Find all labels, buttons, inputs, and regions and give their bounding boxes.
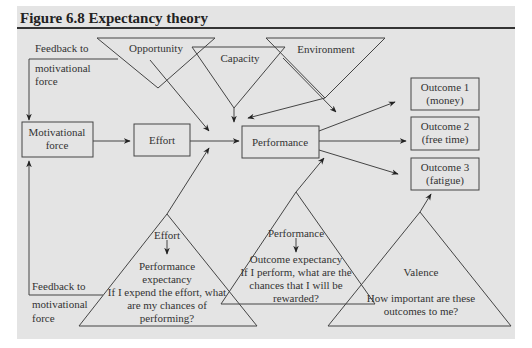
outcome2-line2: (free time)	[422, 133, 469, 146]
effort-triangle-line1: Performance	[139, 260, 195, 272]
outcome3-line1: Outcome 3	[421, 161, 470, 173]
motivational-force-line1: Motivational	[29, 126, 86, 138]
effort-triangle-line5: performing?	[140, 312, 194, 324]
outcome2-line1: Outcome 2	[421, 120, 470, 132]
expectancy-diagram: Opportunity Capacity Environment Feedbac…	[0, 0, 532, 348]
performance-triangle-top: Performance	[268, 227, 324, 239]
feedback-bottom-line1: Feedback to	[32, 280, 86, 292]
feedback-top-line3: force	[35, 75, 58, 87]
outcome3-line2: (fatigue)	[426, 174, 464, 187]
feedback-top-line1: Feedback to	[35, 42, 89, 54]
environment-label: Environment	[297, 43, 354, 55]
effort-label: Effort	[149, 134, 175, 146]
feedback-bottom-line2: motivational	[32, 298, 88, 310]
valence-title: Valence	[404, 266, 439, 278]
performance-triangle-line1: Outcome expectancy	[250, 253, 343, 265]
motivational-force-line2: force	[46, 139, 69, 151]
outcome1-line1: Outcome 1	[421, 81, 470, 93]
performance-triangle-line4: rewarded?	[273, 292, 319, 304]
valence-line1: How important are these	[367, 292, 476, 304]
feedback-top-line2: motivational	[35, 62, 91, 74]
opportunity-label: Opportunity	[129, 42, 183, 54]
effort-triangle-line3: If I expend the effort, what	[108, 286, 226, 298]
effort-triangle-line4: are my chances of	[127, 299, 207, 311]
performance-triangle-line3: chances that I will be	[249, 279, 343, 291]
performance-label: Performance	[252, 136, 308, 148]
valence-line2: outcomes to me?	[384, 305, 459, 317]
outcome1-line2: (money)	[426, 94, 464, 107]
effort-triangle-top: Effort	[154, 229, 180, 241]
feedback-bottom-line3: force	[32, 312, 55, 324]
effort-triangle-line2: expectancy	[142, 273, 192, 285]
capacity-label: Capacity	[220, 52, 260, 64]
performance-triangle-line2: If I perform, what are the	[240, 266, 351, 278]
feedback-bottom-line	[29, 161, 103, 295]
